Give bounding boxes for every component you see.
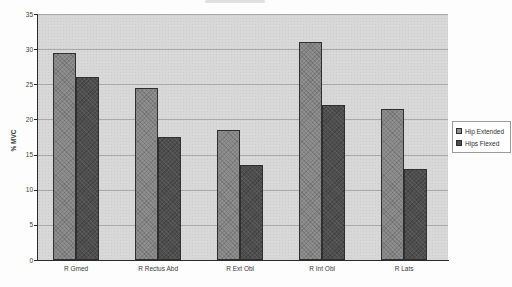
bar-hip-extended-r-rectus-abd (135, 88, 158, 260)
bar-hips-flexed-r-gmed (76, 77, 99, 260)
gridline-30 (38, 49, 448, 50)
y-tick-label-30: 30 (0, 46, 33, 53)
legend-item-hips-flexed: Hips Flexed (456, 137, 507, 149)
bar-hip-extended-r-ext-obl (217, 130, 240, 260)
y-axis-line (37, 14, 38, 261)
bar-hips-flexed-r-ext-obl (240, 165, 263, 260)
y-tickmark-10 (34, 190, 37, 191)
y-tick-label-20: 20 (0, 116, 33, 123)
y-tick-label-15: 15 (0, 151, 33, 158)
x-category-label-r-lats: R Lats (364, 265, 444, 272)
x-category-label-r-rectus-abd: R Rectus Abd (118, 265, 198, 272)
y-tickmark-15 (34, 155, 37, 156)
legend-swatch-hips-flexed (456, 140, 462, 146)
bar-hip-extended-r-lats (381, 109, 404, 260)
legend-swatch-hip-extended (456, 128, 462, 134)
y-tickmark-35 (34, 14, 37, 15)
y-tickmark-25 (34, 84, 37, 85)
gridline-25 (38, 84, 448, 85)
legend-item-hip-extended: Hip Extended (456, 125, 507, 137)
y-tickmark-20 (34, 119, 37, 120)
legend-label: Hips Flexed (465, 140, 499, 147)
bar-hip-extended-r-gmed (53, 53, 76, 260)
y-tick-label-0: 0 (0, 257, 33, 264)
x-category-label-r-int-obl: R Int Obl (282, 265, 362, 272)
y-tick-label-10: 10 (0, 186, 33, 193)
gridline-35 (38, 14, 448, 15)
bar-hips-flexed-r-lats (404, 169, 427, 260)
bar-hips-flexed-r-rectus-abd (158, 137, 181, 260)
bar-hip-extended-r-int-obl (299, 42, 322, 260)
legend: Hip ExtendedHips Flexed (452, 121, 511, 153)
legend-label: Hip Extended (465, 128, 504, 135)
cropped-title-fragment (205, 0, 265, 3)
plot-area (38, 14, 448, 260)
bar-hips-flexed-r-int-obl (322, 105, 345, 260)
y-tickmark-0 (34, 260, 37, 261)
y-tick-label-25: 25 (0, 81, 33, 88)
y-tick-label-5: 5 (0, 221, 33, 228)
bar-chart-figure: % MVC 05101520253035 R GmedR Rectus AbdR… (0, 0, 512, 287)
x-axis-line (37, 260, 449, 261)
y-tickmark-5 (34, 225, 37, 226)
y-tickmark-30 (34, 49, 37, 50)
y-tick-label-35: 35 (0, 11, 33, 18)
x-category-label-r-ext-obl: R Ext Obl (200, 265, 280, 272)
x-category-label-r-gmed: R Gmed (36, 265, 116, 272)
